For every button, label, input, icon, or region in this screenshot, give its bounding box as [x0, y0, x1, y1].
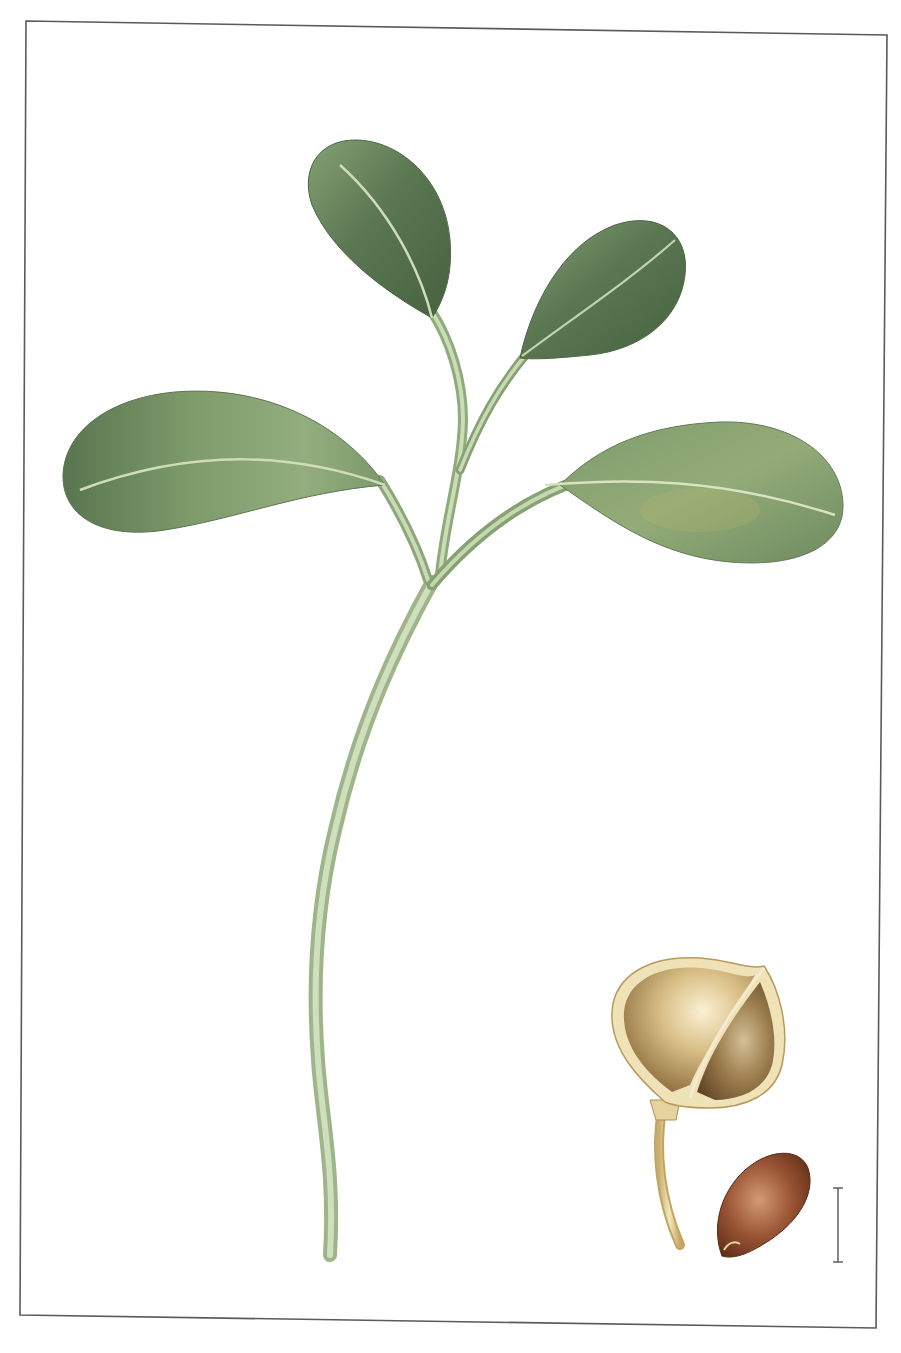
- seed-pod: [612, 958, 785, 1108]
- scale-bar: [833, 1188, 843, 1262]
- illustration-canvas: [0, 0, 901, 1353]
- botanical-illustration: [0, 0, 901, 1353]
- main-stem: [316, 582, 432, 1255]
- seed: [717, 1153, 810, 1257]
- top-right-leaf: [520, 221, 686, 359]
- right-cotyledon: [545, 422, 843, 563]
- frame-border: [20, 21, 887, 1328]
- left-cotyledon: [63, 391, 385, 532]
- top-left-leaf: [308, 140, 450, 318]
- seed-pod-stem: [650, 1100, 680, 1245]
